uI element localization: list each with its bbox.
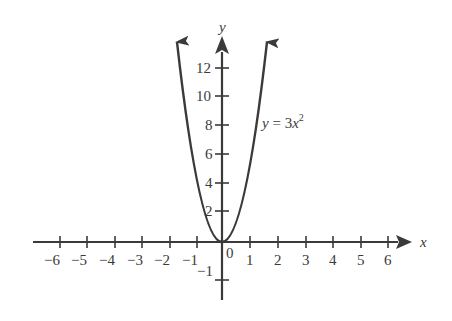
svg-text:2: 2 [274,252,282,268]
svg-text:−4: −4 [99,252,115,268]
svg-text:10: 10 [196,88,211,104]
svg-text:−1: −1 [197,263,213,279]
y-axis-label: y [217,19,226,35]
y-axis-arrow-icon [215,36,229,54]
equation-label: y = 3x2 [260,112,304,131]
parabola-chart: x y −6 −5 −4 −3 −2 −1 0 1 2 3 4 5 6 [0,0,452,321]
svg-text:12: 12 [196,60,211,76]
svg-text:5: 5 [357,252,365,268]
svg-text:3: 3 [302,252,310,268]
svg-text:4: 4 [329,252,337,268]
svg-text:6: 6 [384,252,392,268]
svg-text:−3: −3 [127,252,143,268]
svg-text:−5: −5 [71,252,87,268]
x-tick-labels: −6 −5 −4 −3 −2 −1 0 1 2 3 4 5 6 [44,245,392,268]
svg-text:6: 6 [205,146,213,162]
svg-text:0: 0 [226,245,234,261]
svg-text:−2: −2 [154,252,170,268]
x-axis-label: x [419,234,427,250]
svg-text:−6: −6 [44,252,60,268]
svg-text:8: 8 [205,117,213,133]
x-axis-arrow-icon [396,235,412,249]
svg-text:1: 1 [246,252,254,268]
y-tick-labels: 12 10 8 6 4 2 −1 [196,60,213,279]
svg-text:4: 4 [205,175,213,191]
svg-text:−1: −1 [182,252,198,268]
